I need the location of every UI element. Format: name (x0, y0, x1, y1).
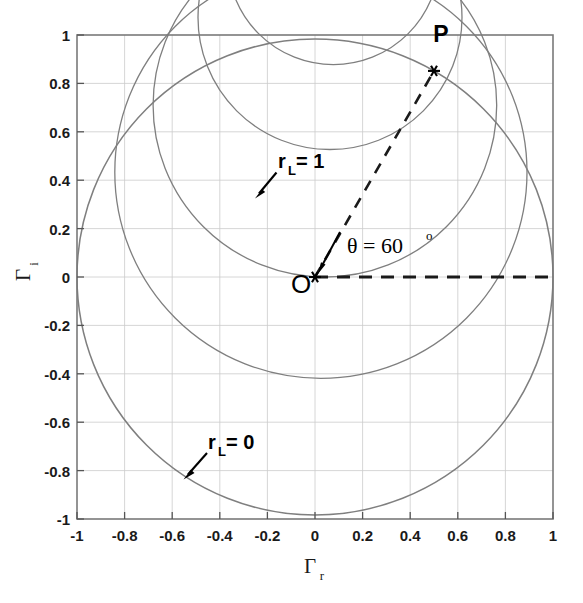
x-tick-label: -0.6 (159, 527, 185, 544)
y-axis-title-gamma: Γ (11, 269, 35, 281)
point-label-O: O (291, 269, 311, 299)
x-tick-label: 0.4 (400, 527, 422, 544)
y-tick-label: 0.2 (49, 221, 70, 238)
annotation-rL-0-eq: = 0 (226, 431, 254, 453)
x-axis-title-subscript: r (320, 568, 325, 583)
y-tick-label: -0.6 (44, 414, 70, 431)
y-axis-title-subscript: i (26, 262, 41, 266)
y-tick-label: -1 (57, 511, 70, 528)
x-tick-label: -0.2 (254, 527, 280, 544)
x-tick-label: -0.4 (207, 527, 234, 544)
annotation-theta-text: θ = 60 (347, 233, 403, 258)
point-label-P: P (433, 21, 448, 47)
y-tick-label: 0.6 (49, 124, 70, 141)
smith-chart-figure: 1 0.8 0.6 0.4 0.2 0 -0.2 -0.4 -0.6 -0.8 … (0, 0, 583, 603)
annotation-rL-1-eq: = 1 (296, 150, 324, 172)
y-tick-label: 0.8 (49, 75, 70, 92)
x-tick-label: 0.8 (495, 527, 516, 544)
y-tick-label: -0.2 (44, 317, 70, 334)
y-tick-label: 1 (62, 27, 70, 44)
x-tick-label: 0.6 (447, 527, 468, 544)
annotation-theta-degree: o (426, 228, 433, 243)
x-tick-label: -1 (70, 527, 83, 544)
y-tick-label: -0.4 (44, 366, 71, 383)
x-tick-label: -0.8 (112, 527, 138, 544)
x-axis-title-gamma: Γ (304, 554, 316, 578)
x-tick-label: 1 (549, 527, 557, 544)
annotation-rL-0-sub: L (218, 444, 226, 459)
y-tick-label: 0 (62, 269, 70, 286)
x-tick-label: 0 (311, 527, 319, 544)
annotation-rL-1-sub: L (288, 163, 296, 178)
figure-canvas: 1 0.8 0.6 0.4 0.2 0 -0.2 -0.4 -0.6 -0.8 … (0, 0, 583, 603)
y-tick-label: -0.8 (44, 463, 70, 480)
annotation-rL-1-r: r (278, 150, 286, 172)
y-tick-label: 0.4 (49, 172, 71, 189)
annotation-rL-0-r: r (208, 431, 216, 453)
x-tick-label: 0.2 (352, 527, 373, 544)
